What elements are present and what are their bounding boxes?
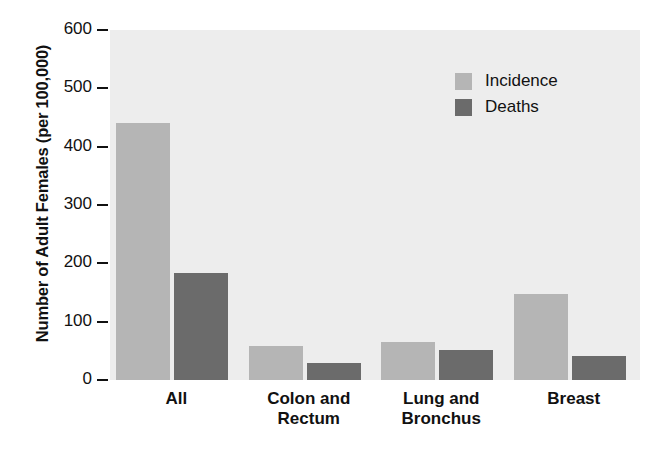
y-axis-tick-mark-icon <box>97 262 108 264</box>
plot-area: Incidence Deaths <box>110 30 640 380</box>
x-axis-label: Breast <box>508 389 641 409</box>
y-axis-tick-mark-icon <box>97 146 108 148</box>
chart-legend: Incidence Deaths <box>455 68 558 120</box>
y-axis-tick-label: 300 <box>64 194 92 214</box>
bar-chart: Number of Adult Females (per 100,000) 01… <box>0 0 656 466</box>
y-axis-tick-mark-icon <box>97 29 108 31</box>
legend-swatch-deaths-icon <box>455 99 472 116</box>
bar-incidence-breast <box>514 294 568 380</box>
y-axis-tick-label: 100 <box>64 311 92 331</box>
bar-incidence-all <box>116 123 170 380</box>
legend-item-deaths: Deaths <box>455 94 558 120</box>
legend-item-incidence: Incidence <box>455 68 558 94</box>
x-axis-label: Colon and Rectum <box>243 389 376 429</box>
x-axis-label: All <box>110 389 243 409</box>
y-axis-tick-label: 600 <box>64 19 92 39</box>
bar-incidence-colon-and-rectum <box>249 346 303 380</box>
y-axis-tick-label: 200 <box>64 252 92 272</box>
y-axis-tick-mark-icon <box>97 87 108 89</box>
x-axis-label: Lung and Bronchus <box>375 389 508 429</box>
legend-label-deaths: Deaths <box>485 97 539 117</box>
bar-incidence-lung-and-bronchus <box>381 342 435 380</box>
y-axis-tick-mark-icon <box>97 379 108 381</box>
y-axis-title: Number of Adult Females (per 100,000) <box>33 4 52 384</box>
y-axis-tick-mark-icon <box>97 321 108 323</box>
legend-swatch-incidence-icon <box>455 73 472 90</box>
y-axis-tick-mark-icon <box>97 204 108 206</box>
y-axis-tick-label: 0 <box>83 369 92 389</box>
bar-deaths-colon-and-rectum <box>307 363 361 381</box>
y-axis-tick-label: 500 <box>64 77 92 97</box>
bar-deaths-breast <box>572 356 626 381</box>
bar-deaths-all <box>174 273 228 380</box>
y-axis-tick-label: 400 <box>64 136 92 156</box>
legend-label-incidence: Incidence <box>485 71 558 91</box>
bar-deaths-lung-and-bronchus <box>439 350 493 380</box>
